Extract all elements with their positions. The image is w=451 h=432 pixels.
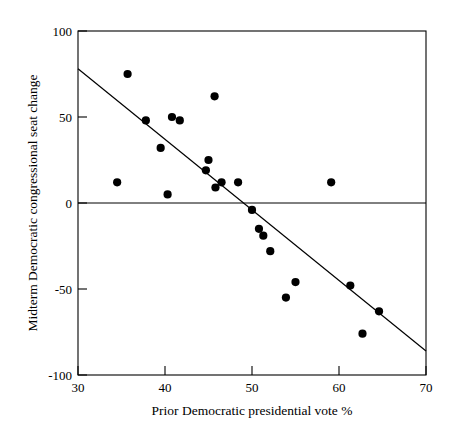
data-point: [210, 92, 218, 100]
data-point: [202, 166, 210, 174]
data-point: [234, 178, 242, 186]
x-tick-label-40: 40: [159, 380, 172, 395]
data-point: [113, 178, 121, 186]
data-point: [255, 225, 263, 233]
y-tick-label-neg50: -50: [55, 282, 72, 297]
data-point: [157, 144, 165, 152]
data-point: [164, 190, 172, 198]
data-point: [358, 330, 366, 338]
y-tick-label-0: 0: [66, 196, 73, 211]
data-point: [142, 116, 150, 124]
y-tick-label-50: 50: [59, 110, 72, 125]
data-point: [346, 281, 354, 289]
y-tick-label-100: 100: [53, 24, 73, 39]
x-axis-title: Prior Democratic presidential vote %: [152, 403, 353, 418]
y-axis-title: Midterm Democratic congressional seat ch…: [25, 74, 40, 331]
x-tick-label-30: 30: [72, 380, 85, 395]
data-point: [204, 156, 212, 164]
data-point: [259, 232, 267, 240]
data-point: [266, 247, 274, 255]
data-point: [217, 178, 225, 186]
data-point: [123, 70, 131, 78]
data-point: [375, 307, 383, 315]
data-point: [248, 206, 256, 214]
y-tick-label-neg100: -100: [48, 368, 72, 383]
data-point: [282, 294, 290, 302]
data-point: [168, 113, 176, 121]
x-tick-label-50: 50: [246, 380, 259, 395]
data-point: [176, 116, 184, 124]
data-point: [327, 178, 335, 186]
x-tick-label-60: 60: [333, 380, 346, 395]
x-tick-label-70: 70: [420, 380, 433, 395]
data-point: [291, 278, 299, 286]
chart-canvas: 100 50 0 -50 -100 30 40 50 60 70 Prior D…: [0, 0, 451, 432]
scatter-plot-figure: 100 50 0 -50 -100 30 40 50 60 70 Prior D…: [0, 0, 451, 432]
